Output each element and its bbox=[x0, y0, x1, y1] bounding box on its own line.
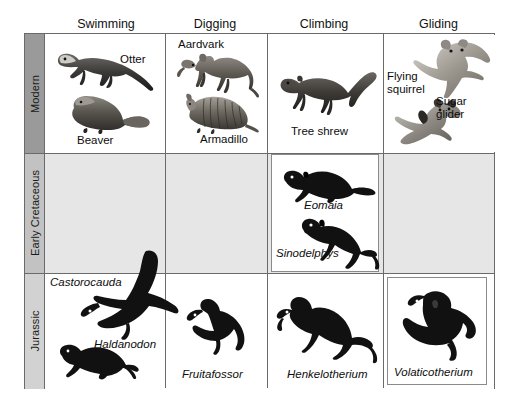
caption-eomaia: Eomaia bbox=[304, 199, 343, 212]
cell-cretaceous-gliding bbox=[384, 154, 495, 272]
caption-armadillo: Armadillo bbox=[200, 133, 248, 146]
period-label-cretaceous-text: Early Cretaceous bbox=[29, 170, 41, 256]
caption-tree-shrew: Tree shrew bbox=[291, 125, 348, 138]
castorocauda-illustration bbox=[76, 249, 188, 341]
henkelotherium-illustration bbox=[276, 288, 380, 366]
column-header-gliding: Gliding bbox=[382, 17, 495, 31]
cell-modern-climbing: Tree shrew bbox=[268, 35, 383, 152]
locomotion-matrix-figure: Swimming Digging Climbing Gliding Modern… bbox=[0, 0, 511, 401]
cell-jurassic-climbing: Henkelotherium bbox=[268, 274, 383, 389]
volaticotherium-illustration bbox=[398, 286, 482, 362]
caption-sinodelphys: Sinodelphys bbox=[276, 247, 339, 260]
matrix-grid: Modern Early Cretaceous Jurassic bbox=[24, 33, 495, 389]
caption-fruitafossor: Fruitafossor bbox=[182, 368, 243, 381]
caption-otter: Otter bbox=[120, 53, 146, 66]
armadillo-illustration bbox=[174, 92, 260, 134]
period-label-jurassic: Jurassic bbox=[25, 273, 45, 389]
cell-jurassic-swimming: Castorocauda Haldanodon bbox=[46, 274, 165, 389]
beaver-illustration bbox=[60, 92, 152, 134]
period-label-modern-text: Modern bbox=[29, 75, 41, 113]
caption-sugar-glider: Sugar glider bbox=[436, 95, 467, 121]
eomaia-illustration bbox=[278, 160, 378, 204]
fruitafossor-illustration bbox=[182, 296, 256, 358]
caption-beaver: Beaver bbox=[77, 134, 113, 147]
period-label-modern: Modern bbox=[25, 34, 45, 153]
caption-henkelotherium: Henkelotherium bbox=[287, 368, 368, 381]
caption-castorocauda: Castorocauda bbox=[50, 276, 122, 289]
caption-volaticotherium: Volaticotherium bbox=[394, 366, 473, 379]
cell-modern-digging: Aardvark bbox=[166, 35, 267, 152]
cell-cretaceous-climbing: Eomaia Sinodelphys bbox=[271, 154, 379, 272]
cell-jurassic-gliding: Volaticotherium bbox=[387, 277, 487, 385]
column-header-swimming: Swimming bbox=[48, 17, 164, 31]
caption-haldanodon: Haldanodon bbox=[94, 338, 156, 351]
column-header-digging: Digging bbox=[164, 17, 266, 31]
caption-flying-squirrel: Flying squirrel bbox=[387, 70, 425, 96]
sinodelphys-illustration bbox=[290, 215, 384, 271]
column-header-climbing: Climbing bbox=[266, 17, 382, 31]
cell-modern-gliding: Flying squirrel Sugar glider bbox=[384, 35, 495, 152]
period-label-cretaceous: Early Cretaceous bbox=[25, 153, 45, 273]
cell-modern-swimming: Otter Beaver bbox=[46, 35, 165, 152]
period-label-jurassic-text: Jurassic bbox=[29, 310, 41, 351]
tree-shrew-illustration bbox=[276, 57, 378, 119]
caption-aardvark: Aardvark bbox=[178, 38, 224, 51]
